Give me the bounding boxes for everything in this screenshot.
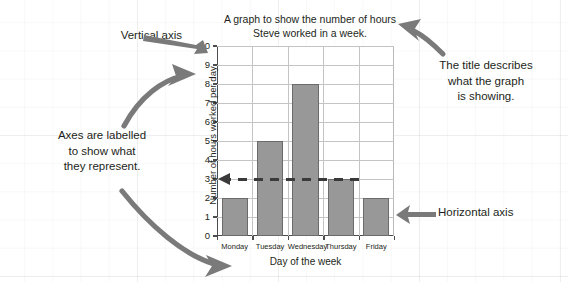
chart-title-line-2: Steve worked in a week. — [253, 27, 367, 39]
y-axis-title: Number of hours worked per day — [207, 38, 218, 234]
annotation-axes-labelled-line-2: to show what — [68, 145, 135, 157]
annotation-axes-labelled-line-3: they represent. — [64, 160, 141, 172]
x-tick-mark — [394, 236, 395, 240]
annotation-title-describes: The title describes what the graph is sh… — [412, 58, 560, 105]
annotation-title-describes-line-1: The title describes — [439, 59, 532, 71]
x-tick-mark — [288, 236, 289, 240]
gridline-horizontal — [217, 46, 394, 47]
x-tick-label-thursday: Thursday — [323, 242, 358, 251]
x-tick-mark — [217, 236, 218, 240]
annotation-axes-labelled-line-1: Axes are labelled — [58, 129, 146, 141]
bar-wednesday — [292, 84, 318, 236]
x-axis-title: Day of the week — [217, 256, 394, 267]
x-tick-label-friday: Friday — [359, 242, 394, 251]
gridline-horizontal — [217, 65, 394, 66]
chart-title-line-1: A graph to show the number of hours — [224, 13, 396, 25]
bar-monday — [222, 198, 248, 236]
x-tick-mark — [359, 236, 360, 240]
gridline-vertical — [252, 46, 253, 236]
annotation-title-describes-line-3: is showing. — [458, 90, 515, 102]
x-tick-label-tuesday: Tuesday — [252, 242, 287, 251]
annotation-axes-labelled: Axes are labelled to show what they repr… — [14, 128, 190, 175]
chart-title: A graph to show the number of hours Stev… — [196, 13, 424, 40]
x-tick-mark — [323, 236, 324, 240]
annotation-vertical-axis: Vertical axis — [86, 28, 182, 44]
dashed-guide-line — [222, 178, 360, 181]
x-tick-label-wednesday: Wednesday — [288, 242, 323, 251]
gridline-vertical — [323, 46, 324, 236]
annotation-horizontal-axis: Horizontal axis — [438, 205, 564, 221]
y-axis-title-container: Number of hours worked per day — [200, 46, 214, 236]
bar-thursday — [328, 179, 354, 236]
annotation-title-describes-line-2: what the graph — [448, 75, 524, 87]
x-tick-label-monday: Monday — [217, 242, 252, 251]
gridline-vertical — [359, 46, 360, 236]
bar-tuesday — [257, 141, 283, 236]
x-tick-mark — [252, 236, 253, 240]
gridline-vertical — [288, 46, 289, 236]
bar-friday — [363, 198, 389, 236]
